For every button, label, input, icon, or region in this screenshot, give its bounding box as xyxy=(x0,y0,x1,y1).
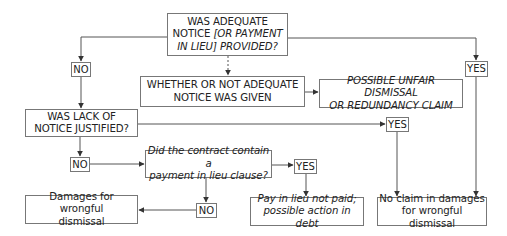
label-yes-pilon: YES xyxy=(294,159,317,174)
q-notice-line3b: PROVIDED? xyxy=(217,41,278,52)
q-notice-line2a: NOTICE xyxy=(172,28,213,39)
q-notice-line3a: IN LIEU] xyxy=(177,41,217,52)
damages-line1: Damages for wrongful xyxy=(26,191,137,216)
pay-in-lieu-box: Pay in lieu not paid; possible action in… xyxy=(250,197,364,226)
pay-line2: possible action in debt xyxy=(251,205,363,230)
label-no-justified: NO xyxy=(70,157,90,172)
label-yes-justified: YES xyxy=(386,117,409,132)
possible-line2: OR REDUNDANCY CLAIM xyxy=(320,100,462,113)
label-yes-notice: YES xyxy=(465,61,488,77)
possible-unfair-dismissal-box: POSSIBLE UNFAIR DISMISSAL OR REDUNDANCY … xyxy=(319,79,463,108)
possible-line1: POSSIBLE UNFAIR DISMISSAL xyxy=(320,75,462,100)
question-lack-justified: WAS LACK OF NOTICE JUSTIFIED? xyxy=(25,109,138,137)
damages-box: Damages for wrongful dismissal xyxy=(25,195,138,224)
label-no-pilon: NO xyxy=(196,203,217,218)
whether-line2: NOTICE WAS GIVEN xyxy=(147,92,299,105)
pilon-line2: payment in lieu clause? xyxy=(146,170,271,183)
pay-line1: Pay in lieu not paid; xyxy=(251,193,363,206)
no-claim-box: No claim in damages for wrongful dismiss… xyxy=(377,197,487,226)
question-pilon-clause: Did the contract contain a payment in li… xyxy=(145,150,272,178)
question-adequate-notice: WAS ADEQUATE NOTICE [OR PAYMENT IN LIEU]… xyxy=(167,13,288,56)
whether-line1: WHETHER OR NOT ADEQUATE xyxy=(147,79,299,92)
justified-line2: NOTICE JUSTIFIED? xyxy=(34,123,129,136)
q-notice-line2b: [OR PAYMENT xyxy=(213,28,282,39)
q-notice-line1: WAS ADEQUATE xyxy=(172,16,282,29)
pilon-line1: Did the contract contain a xyxy=(146,145,271,170)
whether-notice-given-box: WHETHER OR NOT ADEQUATE NOTICE WAS GIVEN xyxy=(140,76,305,107)
noclaim-line1: No claim in damages xyxy=(378,193,486,206)
damages-line2: dismissal xyxy=(26,216,137,229)
label-no-notice: NO xyxy=(71,62,91,77)
noclaim-line2: for wrongful dismissal xyxy=(378,205,486,230)
justified-line1: WAS LACK OF xyxy=(34,111,129,124)
